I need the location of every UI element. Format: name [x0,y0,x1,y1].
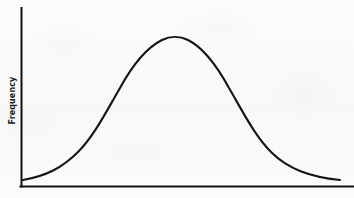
figure-canvas: Frequency [0,0,354,198]
distribution-curve [23,37,340,180]
y-axis-label: Frequency [8,65,17,137]
bell-curve-chart [0,0,354,198]
